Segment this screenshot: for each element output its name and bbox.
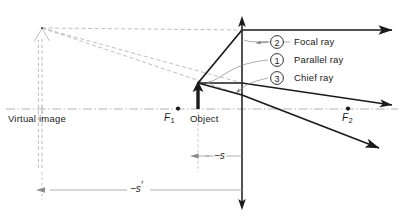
legend-label-focal: Focal ray: [294, 37, 334, 47]
ray-diagram-svg: 2 1 3: [0, 0, 406, 217]
legend-badge-parallel: 1: [271, 54, 284, 67]
legend-number-parallel: 1: [274, 56, 279, 66]
legend-label-parallel: Parallel ray: [294, 55, 343, 65]
focal-point-1-subscript: 1: [171, 116, 175, 125]
focal-point-2-subscript: 2: [349, 116, 353, 125]
legend-label-chief: Chief ray: [294, 73, 333, 83]
object-distance-label: −s: [214, 151, 225, 161]
image-distance-label: −s′: [130, 184, 143, 194]
focal-point-1-marker: [176, 107, 180, 111]
virtual-image-arrow: [34, 27, 49, 168]
virtual-ray-extensions: [42, 28, 242, 95]
object-label: Object: [190, 114, 219, 124]
ray-parallel: [198, 83, 392, 105]
legend-badge-focal: 2: [271, 36, 284, 49]
image-distance-value: −s: [130, 183, 141, 194]
diverging-lens: [238, 16, 246, 210]
legend-badge-chief: 3: [271, 72, 284, 85]
figure-canvas: 2 1 3 Vi: [0, 0, 406, 217]
virtual-image-label: Virtual image: [8, 114, 66, 124]
object-arrow: [193, 81, 204, 109]
focal-point-2-marker: [346, 107, 350, 111]
focal-point-2-letter: F: [342, 112, 348, 123]
legend-number-focal: 2: [274, 38, 279, 48]
legend-number-chief: 3: [274, 74, 279, 84]
image-distance-prime: ′: [141, 180, 143, 191]
focal-point-2-label: F2: [342, 113, 352, 123]
focal-point-1-label: F1: [164, 113, 174, 123]
focal-point-1-letter: F: [164, 112, 170, 123]
